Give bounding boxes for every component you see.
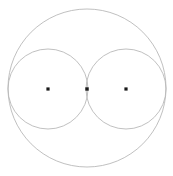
left-center-point bbox=[46, 87, 49, 90]
right-center-point bbox=[124, 87, 127, 90]
circles-diagram bbox=[0, 0, 173, 176]
figure-canvas bbox=[0, 0, 173, 176]
middle-tangent-point bbox=[85, 87, 88, 90]
